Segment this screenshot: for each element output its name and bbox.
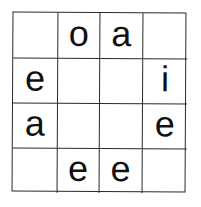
grid-cell-r3c2[interactable] [58, 104, 100, 149]
grid-cell-r4c1[interactable] [13, 149, 58, 193]
grid-cell-r2c1[interactable]: e [13, 59, 58, 104]
grid-cell-r4c4[interactable] [143, 149, 187, 193]
grid-cell-r2c2[interactable] [58, 59, 100, 104]
grid-cell-r4c3[interactable]: e [100, 149, 143, 193]
grid-cell-r3c3[interactable] [100, 104, 143, 149]
grid-cell-r1c1[interactable] [13, 13, 58, 59]
grid-cell-r1c3[interactable]: a [100, 13, 143, 59]
grid-cell-r3c4[interactable]: e [143, 104, 187, 149]
grid-cell-r4c2[interactable]: e [58, 149, 100, 193]
grid-cell-r1c4[interactable] [143, 13, 187, 59]
grid-cell-r3c1[interactable]: a [13, 104, 58, 149]
grid-cell-r1c2[interactable]: o [58, 13, 100, 59]
grid-cell-r2c3[interactable] [100, 59, 143, 104]
grid-cell-r2c4[interactable]: i [143, 59, 187, 104]
letter-grid: o a e i a e e e [12, 12, 187, 193]
